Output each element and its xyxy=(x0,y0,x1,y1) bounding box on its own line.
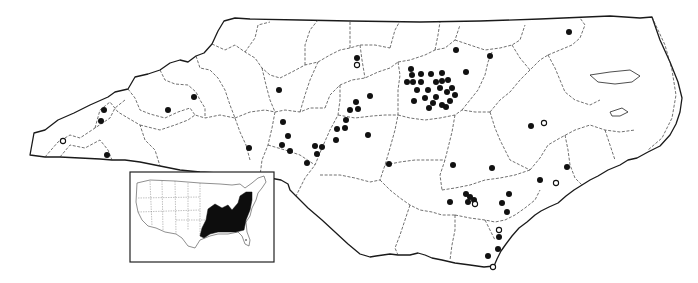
occurrence-dot-filled xyxy=(496,234,502,240)
occurrence-dot-filled xyxy=(414,87,420,93)
occurrence-dot-filled xyxy=(101,107,107,113)
occurrence-dot-open xyxy=(60,138,65,143)
us-inset xyxy=(130,172,274,262)
occurrence-dot-filled xyxy=(449,85,455,91)
occurrence-dot-filled xyxy=(285,133,291,139)
occurrence-dot-open xyxy=(496,227,501,232)
occurrence-dot-filled xyxy=(495,246,501,252)
occurrence-dot-filled xyxy=(342,125,348,131)
occurrence-dot-filled xyxy=(537,177,543,183)
occurrence-dot-filled xyxy=(365,132,371,138)
occurrence-dot-filled xyxy=(165,107,171,113)
occurrence-dot-filled xyxy=(409,72,415,78)
occurrence-dot-filled xyxy=(566,29,572,35)
distribution-map: North Carolina species distribution map xyxy=(0,0,698,283)
occurrence-dot-filled xyxy=(304,160,310,166)
occurrence-dot-filled xyxy=(430,100,436,106)
occurrence-dot-filled xyxy=(439,78,445,84)
occurrence-dot-filled xyxy=(287,148,293,154)
occurrence-dot-filled xyxy=(425,87,431,93)
occurrence-dot-filled xyxy=(408,66,414,72)
occurrence-dot-filled xyxy=(319,144,325,150)
north-carolina-outline xyxy=(30,16,682,267)
occurrence-dot-filled xyxy=(246,145,252,151)
occurrence-dot-filled xyxy=(439,102,445,108)
occurrence-dot-filled xyxy=(506,191,512,197)
occurrence-dot-filled xyxy=(428,71,434,77)
occurrence-dot-filled xyxy=(276,87,282,93)
occurrence-dot-filled xyxy=(98,118,104,124)
occurrence-dot-filled xyxy=(426,105,432,111)
occurrence-dot-filled xyxy=(450,162,456,168)
occurrence-dot-filled xyxy=(444,89,450,95)
occurrence-dot-filled xyxy=(564,164,570,170)
occurrence-dot-filled xyxy=(489,165,495,171)
occurrence-dot-filled xyxy=(104,152,110,158)
occurrence-dot-open xyxy=(490,264,495,269)
occurrence-dot-filled xyxy=(499,200,505,206)
occurrence-dot-filled xyxy=(418,79,424,85)
occurrence-dot-filled xyxy=(191,94,197,100)
occurrence-dot-filled xyxy=(487,53,493,59)
inset-florida-dot xyxy=(245,239,247,241)
occurrence-dot-filled xyxy=(280,119,286,125)
occurrence-dot-filled xyxy=(410,79,416,85)
occurrence-dot-filled xyxy=(504,209,510,215)
occurrence-dot-open xyxy=(541,120,546,125)
occurrence-dot-filled xyxy=(386,161,392,167)
occurrence-dot-filled xyxy=(528,123,534,129)
occurrence-dot-filled xyxy=(314,151,320,157)
occurrence-dot-filled xyxy=(439,70,445,76)
occurrence-dot-filled xyxy=(404,79,410,85)
occurrence-dot-filled xyxy=(433,79,439,85)
occurrence-dot-filled xyxy=(354,55,360,61)
occurrence-dot-open xyxy=(354,62,359,67)
occurrence-dot-filled xyxy=(355,106,361,112)
occurrence-dot-filled xyxy=(452,92,458,98)
occurrence-dot-filled xyxy=(433,94,439,100)
occurrence-dot-filled xyxy=(367,93,373,99)
occurrence-dot-filled xyxy=(437,85,443,91)
occurrence-dot-filled xyxy=(485,253,491,259)
occurrence-dot-filled xyxy=(411,98,417,104)
occurrence-dot-filled xyxy=(463,69,469,75)
occurrence-dot-filled xyxy=(453,47,459,53)
occurrence-dot-filled xyxy=(333,137,339,143)
occurrence-dot-filled xyxy=(422,95,428,101)
occurrence-dot-filled xyxy=(312,143,318,149)
occurrence-dot-filled xyxy=(465,199,471,205)
occurrence-dot-filled xyxy=(418,71,424,77)
occurrence-dot-filled xyxy=(279,142,285,148)
occurrence-dot-filled xyxy=(353,99,359,105)
occurrence-dot-open xyxy=(472,201,477,206)
occurrence-dot-filled xyxy=(347,107,353,113)
occurrence-dot-filled xyxy=(447,98,453,104)
occurrence-dot-filled xyxy=(343,117,349,123)
occurrence-dot-filled xyxy=(445,77,451,83)
occurrence-dot-filled xyxy=(447,199,453,205)
occurrence-dot-open xyxy=(553,180,558,185)
occurrence-dot-filled xyxy=(334,126,340,132)
